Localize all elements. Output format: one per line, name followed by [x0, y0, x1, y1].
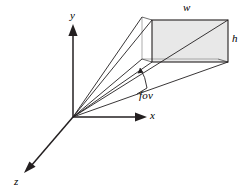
plane-height-label: h: [232, 33, 238, 44]
plane-width-label: w: [183, 2, 190, 13]
x-axis-label: x: [150, 110, 155, 121]
frustum-vector-graphic: [0, 0, 246, 193]
image-plane-fill: [152, 20, 228, 62]
y-axis-label: y: [70, 10, 75, 21]
fov-angle-label: fov: [139, 90, 153, 101]
x-axis-arrowhead: [135, 112, 147, 121]
z-axis-label: z: [14, 176, 18, 187]
y-axis-arrowhead: [68, 24, 77, 36]
view-frustum-figure: y x z w h fov: [0, 0, 246, 193]
